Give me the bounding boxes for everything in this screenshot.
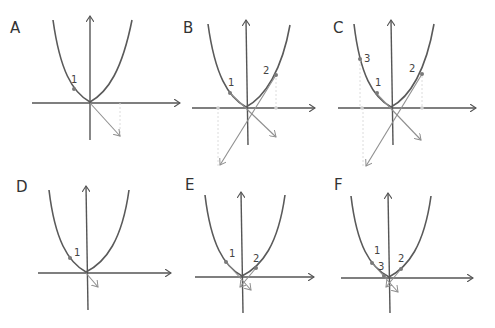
parabola-curve bbox=[351, 196, 431, 277]
panel-e: E 1 2 bbox=[185, 176, 314, 313]
panel-label-f: F bbox=[334, 176, 343, 194]
point-1 bbox=[72, 87, 76, 91]
point-label-1: 1 bbox=[74, 247, 80, 258]
panel-a: A 1 bbox=[10, 16, 180, 140]
point-label-2: 2 bbox=[409, 63, 415, 74]
parabola-curve bbox=[53, 20, 132, 102]
point-1 bbox=[68, 256, 72, 260]
panel-d: D 1 bbox=[16, 178, 171, 310]
point-label-1: 1 bbox=[71, 74, 77, 85]
point-3 bbox=[358, 57, 362, 61]
panel-label-c: C bbox=[333, 19, 343, 37]
parabola-curve bbox=[354, 24, 434, 107]
guide-dot bbox=[216, 106, 220, 110]
step-arrow bbox=[90, 103, 120, 136]
y-axis bbox=[388, 193, 390, 313]
point-2 bbox=[399, 267, 403, 271]
point-label-2: 2 bbox=[398, 253, 404, 264]
guide-dot bbox=[274, 106, 278, 110]
step-arrow-1 bbox=[230, 93, 276, 137]
panel-b: B 1 2 bbox=[183, 19, 315, 168]
point-label-1: 1 bbox=[375, 77, 381, 88]
panel-label-b: B bbox=[183, 19, 193, 37]
point-2 bbox=[274, 73, 278, 77]
point-label-3: 3 bbox=[364, 53, 370, 64]
point-1 bbox=[228, 91, 232, 95]
point-1 bbox=[370, 261, 374, 265]
step-arrow-1 bbox=[376, 93, 421, 140]
guide-dot bbox=[420, 106, 424, 110]
step-arrow-1 bbox=[226, 262, 251, 290]
point-label-1: 1 bbox=[374, 245, 380, 256]
parabola-curve bbox=[205, 195, 285, 276]
panel-label-a: A bbox=[10, 19, 21, 37]
point-1 bbox=[224, 260, 228, 264]
step-arrow-2 bbox=[220, 75, 276, 165]
gradient-descent-figure: A 1 B 1 2 C bbox=[0, 0, 495, 328]
panel-c: C 1 2 3 bbox=[333, 19, 476, 168]
parabola-curve bbox=[49, 190, 129, 272]
y-axis bbox=[241, 192, 243, 313]
y-axis bbox=[391, 20, 393, 145]
panel-f: F 1 2 3 bbox=[334, 176, 473, 313]
point-label-1: 1 bbox=[229, 248, 235, 259]
y-axis bbox=[246, 20, 248, 145]
panel-label-e: E bbox=[185, 176, 194, 194]
guide-dot bbox=[360, 106, 364, 110]
point-1 bbox=[375, 91, 379, 95]
point-label-2: 2 bbox=[253, 253, 259, 264]
parabola-curve bbox=[208, 24, 290, 107]
point-label-3: 3 bbox=[378, 261, 384, 272]
y-axis bbox=[86, 186, 88, 310]
point-3 bbox=[382, 274, 386, 278]
point-label-2: 2 bbox=[263, 65, 269, 76]
point-2 bbox=[420, 72, 424, 76]
point-2 bbox=[254, 266, 258, 270]
point-label-1: 1 bbox=[228, 77, 234, 88]
panel-label-d: D bbox=[16, 178, 28, 196]
